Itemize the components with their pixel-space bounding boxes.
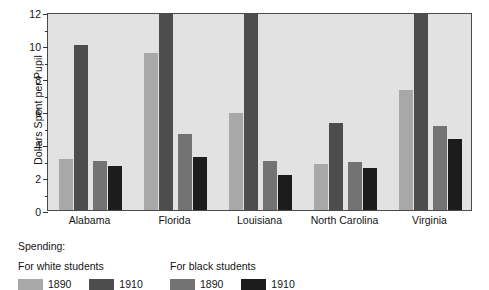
bar-florida-white-1890 — [144, 53, 158, 210]
legend-keys-white: 1890 1910 — [18, 278, 155, 290]
y-axis-tick — [43, 179, 48, 180]
legend-key-white-1890: 1890 — [18, 278, 71, 290]
plot-frame: 024681012 — [47, 13, 472, 211]
y-axis-minor-tick — [45, 163, 49, 164]
bar-alabama-black-1910 — [108, 166, 122, 210]
bar-north-carolina-black-1890 — [348, 162, 362, 210]
y-axis-tick-label: 8 — [35, 74, 41, 86]
bar-virginia-white-1890 — [399, 90, 413, 210]
y-axis-tick — [43, 212, 48, 213]
bar-alabama-white-1910 — [74, 45, 88, 210]
bar-alabama-black-1890 — [93, 161, 107, 211]
bar-florida-black-1890 — [178, 134, 192, 210]
x-axis-label-virginia: Virginia — [412, 214, 447, 226]
bar-florida-black-1910 — [193, 157, 207, 210]
bar-north-carolina-black-1910 — [363, 168, 377, 210]
y-axis-tick — [43, 14, 48, 15]
legend-label-black-1890: 1890 — [200, 278, 223, 290]
legend-keys-black: 1890 1910 — [170, 278, 307, 290]
bar-virginia-black-1910 — [448, 139, 462, 210]
x-axis-label-louisiana: Louisiana — [237, 214, 282, 226]
bar-louisiana-black-1910 — [278, 175, 292, 210]
y-axis-minor-tick — [45, 196, 49, 197]
bar-chart-figure: Dollars Spent per Pupil 024681012 Alabam… — [0, 0, 489, 290]
bar-virginia-black-1890 — [433, 126, 447, 210]
x-axis-label-alabama: Alabama — [69, 214, 110, 226]
legend-label-black-1910: 1910 — [271, 278, 294, 290]
y-axis-tick — [43, 47, 48, 48]
bar-florida-white-1910 — [159, 14, 173, 210]
legend-label-white-1910: 1910 — [119, 278, 142, 290]
y-axis-minor-tick — [45, 130, 49, 131]
legend-swatch-black-1890 — [170, 279, 195, 290]
bar-louisiana-white-1890 — [229, 113, 243, 210]
chart-legend: Spending: For white students 1890 1910 F… — [18, 240, 65, 290]
legend-heading-black: For black students — [170, 260, 307, 272]
y-axis-tick-label: 4 — [35, 140, 41, 152]
legend-key-white-1910: 1910 — [89, 278, 142, 290]
legend-swatch-white-1910 — [89, 279, 114, 290]
y-axis-tick-label: 2 — [35, 173, 41, 185]
bar-virginia-white-1910 — [414, 14, 428, 210]
legend-key-black-1890: 1890 — [170, 278, 223, 290]
bar-louisiana-white-1910 — [244, 14, 258, 210]
y-axis-tick-label: 12 — [29, 8, 41, 20]
legend-swatch-black-1910 — [241, 279, 266, 290]
legend-key-black-1910: 1910 — [241, 278, 294, 290]
plot-area: 024681012 — [48, 14, 471, 210]
bar-north-carolina-white-1910 — [329, 123, 343, 210]
legend-label-white-1890: 1890 — [48, 278, 71, 290]
bar-north-carolina-white-1890 — [314, 164, 328, 210]
y-axis-tick — [43, 80, 48, 81]
legend-title: Spending: — [18, 240, 65, 252]
y-axis-tick-label: 6 — [35, 107, 41, 119]
y-axis-minor-tick — [45, 97, 49, 98]
y-axis-tick-label: 10 — [29, 41, 41, 53]
y-axis-minor-tick — [45, 64, 49, 65]
bar-alabama-white-1890 — [59, 159, 73, 210]
y-axis-minor-tick — [45, 31, 49, 32]
y-axis-tick — [43, 146, 48, 147]
y-axis-tick-label: 0 — [35, 206, 41, 218]
legend-heading-white: For white students — [18, 260, 155, 272]
bar-louisiana-black-1890 — [263, 161, 277, 211]
x-axis-label-north-carolina: North Carolina — [311, 214, 379, 226]
y-axis-tick — [43, 113, 48, 114]
legend-group-white: For white students 1890 1910 — [18, 260, 155, 290]
legend-swatch-white-1890 — [18, 279, 43, 290]
legend-group-black: For black students 1890 1910 — [170, 260, 307, 290]
x-axis-label-florida: Florida — [158, 214, 190, 226]
